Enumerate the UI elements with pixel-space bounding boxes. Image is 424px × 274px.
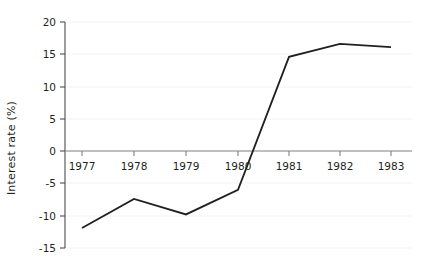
x-tick-label-1983: 1983 xyxy=(378,160,405,172)
data-series-line xyxy=(82,44,391,228)
y-tick-label-15: 15 xyxy=(43,48,56,60)
y-axis-ticks xyxy=(60,22,65,248)
x-tick-label-1977: 1977 xyxy=(69,160,96,172)
x-tick-label-1978: 1978 xyxy=(121,160,148,172)
chart-plot-area: 20 15 10 5 0 -5 -10 -15 1977 1978 1979 1… xyxy=(0,0,424,274)
x-axis-ticks xyxy=(82,151,391,156)
interest-rate-line-chart: Interest rate (%) 20 15 10 xyxy=(0,0,424,274)
y-tick-label-10: 10 xyxy=(43,81,56,93)
y-gridlines xyxy=(65,22,412,248)
x-tick-label-1982: 1982 xyxy=(327,160,354,172)
x-tick-label-1979: 1979 xyxy=(173,160,200,172)
y-tick-label-neg10: -10 xyxy=(39,210,56,222)
y-tick-label-0: 0 xyxy=(49,145,56,157)
y-tick-label-5: 5 xyxy=(49,113,56,125)
y-tick-label-20: 20 xyxy=(43,16,56,28)
x-tick-label-1981: 1981 xyxy=(276,160,303,172)
y-tick-label-neg5: -5 xyxy=(46,177,56,189)
y-tick-label-neg15: -15 xyxy=(39,242,56,254)
